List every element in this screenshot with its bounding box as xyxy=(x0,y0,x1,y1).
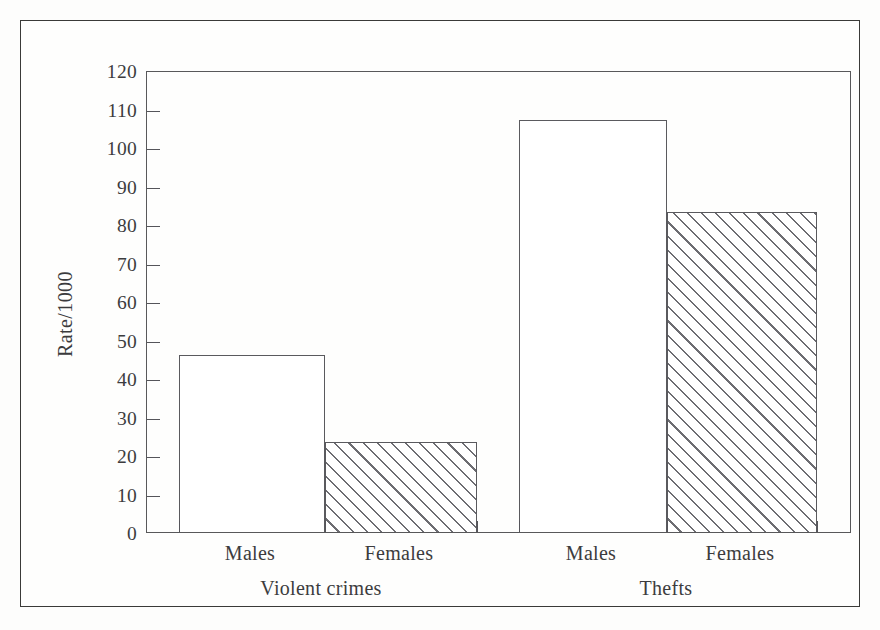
x-tick-mark-3 xyxy=(519,521,520,532)
x-tick-mark-5 xyxy=(817,521,818,532)
y-tick-mark xyxy=(147,149,160,150)
y-tick-mark xyxy=(147,226,160,227)
y-tick-mark xyxy=(147,188,160,189)
y-tick-label: 70 xyxy=(117,254,137,276)
y-tick-label: 90 xyxy=(117,177,137,199)
y-tick-label: 50 xyxy=(117,331,137,353)
y-tick-mark xyxy=(147,265,160,266)
x-label-violent-females: Females xyxy=(365,542,434,565)
x-tick-mark-1 xyxy=(325,521,326,532)
y-tick-label: 110 xyxy=(108,100,137,122)
x-tick-mark-4 xyxy=(667,521,668,532)
group-label-thefts: Thefts xyxy=(640,577,693,600)
y-tick-label: 20 xyxy=(117,446,137,468)
y-tick-mark xyxy=(147,342,160,343)
y-tick-label: 80 xyxy=(117,215,137,237)
plot-frame: 0102030405060708090100110120 xyxy=(146,71,851,533)
chart-page: Rate/1000 0102030405060708090100110120 M… xyxy=(0,0,880,630)
y-tick-mark xyxy=(147,380,160,381)
y-tick-label: 0 xyxy=(127,523,137,545)
y-tick-mark xyxy=(147,111,160,112)
x-label-thefts-females: Females xyxy=(706,542,775,565)
y-tick-label: 40 xyxy=(117,369,137,391)
x-tick-mark-2 xyxy=(477,521,478,532)
y-tick-mark xyxy=(147,303,160,304)
plot-area: 0102030405060708090100110120 xyxy=(147,72,850,532)
y-tick-mark xyxy=(147,496,160,497)
bar-thefts-females xyxy=(667,212,817,532)
bar-thefts-males xyxy=(519,120,667,532)
x-label-thefts-males: Males xyxy=(566,542,616,565)
y-tick-label: 60 xyxy=(117,292,137,314)
group-label-violent-crimes: Violent crimes xyxy=(260,577,381,600)
x-tick-mark-0 xyxy=(179,521,180,532)
y-tick-label: 10 xyxy=(117,485,137,507)
figure-outer-frame: Rate/1000 0102030405060708090100110120 M… xyxy=(20,20,860,607)
x-label-violent-males: Males xyxy=(225,542,275,565)
y-tick-label: 100 xyxy=(107,138,137,160)
y-tick-mark xyxy=(147,457,160,458)
y-tick-label: 120 xyxy=(107,61,137,83)
y-tick-label: 30 xyxy=(117,408,137,430)
bar-violent-crimes-females xyxy=(325,442,477,532)
y-axis-title: Rate/1000 xyxy=(54,271,77,357)
y-tick-mark xyxy=(147,419,160,420)
bar-violent-crimes-males xyxy=(179,355,325,532)
